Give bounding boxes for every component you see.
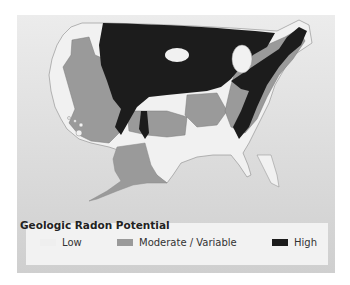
- florida: [257, 155, 279, 187]
- legend-row: Low Moderate / Variable High: [0, 237, 318, 251]
- high-swatch-icon: [272, 239, 288, 246]
- low-patch-dakotas: [165, 48, 189, 62]
- legend-item-low: Low: [40, 237, 82, 248]
- legend-label-moderate: Moderate / Variable: [139, 237, 237, 248]
- radon-map-panel: [17, 15, 335, 273]
- low-patch-great-lakes: [232, 45, 252, 73]
- legend-label-low: Low: [62, 237, 82, 248]
- us-radon-map: [17, 15, 335, 225]
- moderate-swatch-icon: [117, 239, 133, 246]
- legend-item-high: High: [272, 237, 317, 248]
- low-swatch-icon: [40, 239, 56, 246]
- legend-label-high: High: [294, 237, 317, 248]
- legend-title: Geologic Radon Potential: [20, 219, 170, 231]
- legend-item-moderate: Moderate / Variable: [117, 237, 237, 248]
